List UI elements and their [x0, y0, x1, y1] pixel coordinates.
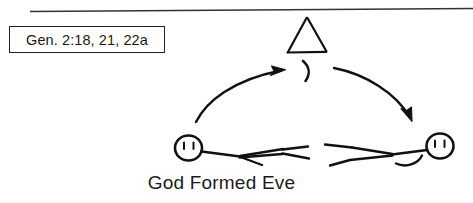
eve-leg-upper	[325, 145, 352, 148]
arrow-left-upward	[196, 66, 286, 122]
scripture-reference-box: Gen. 2:18, 21, 22a	[9, 26, 165, 53]
adam-leg-lower	[283, 154, 310, 159]
adam-leg-upper	[283, 147, 309, 150]
eve-hook-stroke	[396, 156, 422, 166]
adam-neck	[202, 152, 241, 157]
figure-eve	[325, 134, 454, 166]
horizontal-rule	[30, 9, 473, 12]
triangle-symbol	[288, 18, 327, 53]
scripture-reference-label: Gen. 2:18, 21, 22a	[26, 32, 148, 48]
eve-leg-lower	[330, 160, 350, 166]
eve-neck	[392, 150, 427, 155]
illustration-caption-text: God Formed Eve	[148, 172, 295, 194]
arrow-right-downward	[334, 68, 412, 122]
crescent-mark	[303, 61, 309, 81]
eve-arm-upper	[352, 148, 393, 155]
illustration-caption: God Formed Eve	[0, 172, 473, 194]
illustration-page: Gen. 2:18, 21, 22a God Formed Eve	[0, 0, 473, 203]
adam-head	[175, 136, 202, 161]
figure-adam	[175, 136, 309, 166]
eve-head	[427, 134, 454, 159]
adam-leg-droop	[241, 157, 263, 165]
eve-arm-lower	[350, 156, 393, 161]
